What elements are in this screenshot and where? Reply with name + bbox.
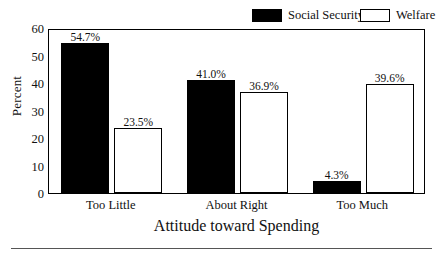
legend-label-social-security: Social Security — [288, 8, 364, 22]
x-axis-title: Attitude toward Spending — [48, 216, 425, 236]
bar-value-label: 41.0% — [187, 68, 235, 80]
bar-welfare — [366, 84, 414, 193]
y-axis-tick-label: 20 — [22, 133, 44, 145]
y-axis-tick-labels: 0102030405060 — [20, 29, 44, 194]
x-axis-tick-label: Too Little — [86, 198, 135, 212]
bar-social-security — [187, 80, 235, 193]
bar-welfare — [240, 92, 288, 193]
bar-value-label: 39.6% — [366, 72, 414, 84]
x-axis-tick-label: About Right — [205, 198, 267, 212]
bar-value-label: 36.9% — [240, 80, 288, 92]
bar-social-security — [313, 181, 361, 193]
legend-label-welfare: Welfare — [396, 8, 435, 22]
y-axis-tick-label: 0 — [22, 188, 44, 200]
footer-divider — [11, 248, 432, 249]
legend-item-social-security: Social Security — [252, 7, 364, 23]
y-axis-tick-label: 60 — [22, 23, 44, 35]
chart-legend: Social Security Welfare — [252, 7, 438, 23]
x-axis-tick-labels: Too LittleAbout RightToo Much — [48, 198, 425, 214]
y-axis-tick-label: 30 — [22, 106, 44, 118]
plot-area: 54.7%23.5%41.0%36.9%4.3%39.6% — [48, 29, 425, 194]
bar-welfare — [114, 128, 162, 193]
legend-swatch-welfare-icon — [360, 9, 390, 22]
bar-social-security — [61, 43, 109, 193]
legend-swatch-social-security-icon — [252, 9, 282, 22]
bars-container: 54.7%23.5%41.0%36.9%4.3%39.6% — [49, 30, 424, 193]
y-axis-tick-label: 50 — [22, 51, 44, 63]
bar-value-label: 4.3% — [313, 169, 361, 181]
legend-item-welfare: Welfare — [360, 7, 435, 23]
y-axis-tick-label: 10 — [22, 161, 44, 173]
bar-value-label: 23.5% — [114, 116, 162, 128]
x-axis-tick-label: Too Much — [336, 198, 388, 212]
y-axis-tick-label: 40 — [22, 78, 44, 90]
chart-figure: Social Security Welfare Percent 01020304… — [0, 0, 441, 255]
bar-value-label: 54.7% — [61, 31, 109, 43]
